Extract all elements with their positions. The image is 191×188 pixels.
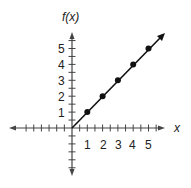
x-tick-label: 1 — [84, 139, 91, 151]
x-axis-left-arrow-icon — [9, 126, 16, 131]
y-tick-label: 3 — [58, 75, 65, 87]
y-tick-label: 4 — [58, 59, 65, 71]
x-axis-right-arrow-icon — [158, 126, 165, 131]
coordinate-plane — [0, 0, 191, 188]
y-axis-label: f(x) — [62, 11, 79, 23]
y-axis-up-arrow-icon — [70, 32, 75, 39]
y-tick-label: 5 — [58, 43, 65, 55]
x-tick-label: 4 — [129, 139, 136, 151]
x-axis-label: x — [174, 122, 180, 134]
y-axis-down-arrow-icon — [70, 169, 75, 176]
x-tick-label: 2 — [100, 139, 107, 151]
x-tick-label: 3 — [115, 139, 122, 151]
y-tick-label: 2 — [58, 91, 65, 103]
y-tick-label: 1 — [58, 107, 65, 119]
x-tick-label: 5 — [145, 139, 152, 151]
